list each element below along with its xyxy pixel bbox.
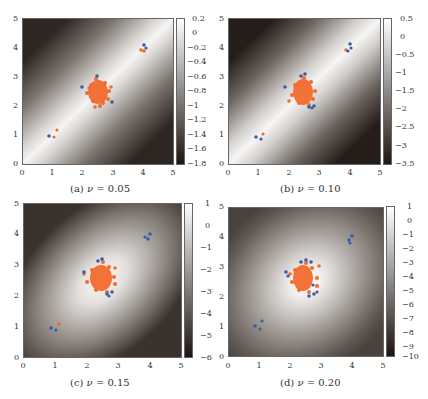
heatmap-b	[229, 19, 380, 164]
colorbar-d	[386, 206, 395, 357]
heatmap-c	[24, 204, 181, 357]
heatmap-a	[23, 19, 173, 164]
panel-c: 1 0 −1 −2 −3 −4 −5 −6 5 4 3 2 1 0 0 1 2 …	[0, 200, 214, 399]
heatmap-d	[229, 208, 383, 356]
caption-a: (a) ν = 0.05	[70, 183, 130, 194]
colorbar-c	[184, 203, 193, 358]
heatmap-plot-b	[228, 18, 381, 165]
caption-b: (b) ν = 0.10	[280, 183, 341, 194]
panel-b: 0.5 0 −0.5 −1 −1.5 −2 −2.5 −3 −3.5 5 4 3…	[214, 0, 428, 200]
caption-d: (d) ν = 0.20	[280, 377, 341, 388]
heatmap-plot-a	[22, 18, 174, 165]
panel-d: 1 0 −1 −2 −3 −4 −5 −6 −7 −8 −9 −10 5 4 3…	[214, 200, 428, 399]
heatmap-plot-c	[23, 203, 182, 358]
panel-a: 0.2 0 −0.2 −0.4 −0.6 −0.8 −1 −1.2 −1.4 −…	[0, 0, 214, 200]
colorbar-b	[383, 18, 392, 165]
caption-c: (c) ν = 0.15	[70, 377, 130, 388]
heatmap-plot-d	[228, 207, 384, 357]
colorbar-a	[176, 18, 185, 165]
